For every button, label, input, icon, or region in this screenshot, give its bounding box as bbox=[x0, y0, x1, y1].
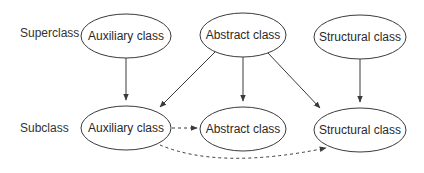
node-super-structural: Structural class bbox=[314, 15, 406, 59]
node-label: Auxiliary class bbox=[88, 121, 164, 135]
node-label: Auxiliary class bbox=[88, 29, 164, 43]
node-sub-auxiliary: Auxiliary class bbox=[81, 106, 171, 150]
node-label: Structural class bbox=[319, 30, 401, 44]
edge-super-abstract-to-sub-structural bbox=[268, 53, 320, 108]
node-sub-structural: Structural class bbox=[314, 108, 406, 152]
node-super-abstract: Abstract class bbox=[200, 13, 286, 57]
subclass-row-label: Subclass bbox=[20, 121, 69, 135]
superclass-row-label: Superclass bbox=[20, 26, 79, 40]
node-label: Structural class bbox=[319, 123, 401, 137]
edge-super-abstract-to-sub-aux bbox=[160, 52, 215, 107]
node-label: Abstract class bbox=[206, 122, 281, 136]
node-label: Abstract class bbox=[206, 28, 281, 42]
class-hierarchy-diagram: Superclass Subclass Auxiliary class Abst… bbox=[0, 0, 424, 173]
node-sub-abstract: Abstract class bbox=[200, 107, 286, 151]
node-super-auxiliary: Auxiliary class bbox=[81, 14, 171, 58]
